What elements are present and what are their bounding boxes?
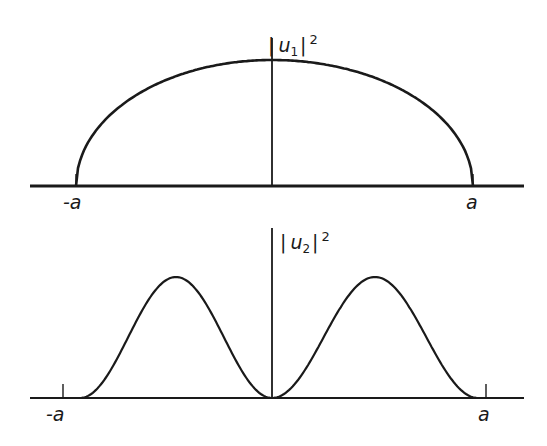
bottom-y-label: |u2|2 [280, 229, 330, 256]
bottom-right-label: a [478, 403, 490, 425]
probability-density-diagram: |u1|2 -a a |u2|2 -a a [0, 0, 547, 446]
u2-squared-curve [80, 277, 478, 398]
u1-squared-curve [76, 60, 473, 186]
top-panel: |u1|2 -a a [30, 32, 524, 213]
bottom-left-label: -a [46, 403, 65, 425]
bottom-panel: |u2|2 -a a [30, 228, 524, 425]
top-right-label: a [466, 191, 478, 213]
top-y-label: |u1|2 [268, 32, 318, 59]
top-left-label: -a [63, 191, 82, 213]
